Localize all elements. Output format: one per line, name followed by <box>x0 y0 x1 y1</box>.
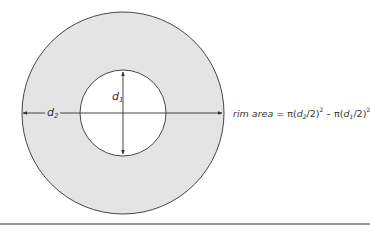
bottom-rule <box>0 223 370 225</box>
d1-subscript: 1 <box>119 96 123 104</box>
formula-equals: = <box>273 108 287 119</box>
d2-base: d <box>47 106 54 119</box>
formula-div: /2) <box>353 108 366 119</box>
d2-label: d2 <box>47 107 58 120</box>
formula-div: /2) <box>307 108 320 119</box>
formula-square: 2 <box>366 106 370 113</box>
rim-area-formula: rim area = π(d2/2)2 – π(d1/2)2 <box>233 107 370 120</box>
formula-lhs: rim area <box>233 108 273 119</box>
d2-subscript: 2 <box>54 112 58 120</box>
d1-base: d <box>112 90 119 103</box>
formula-minus: – <box>323 108 334 119</box>
d1-label: d1 <box>112 91 123 104</box>
